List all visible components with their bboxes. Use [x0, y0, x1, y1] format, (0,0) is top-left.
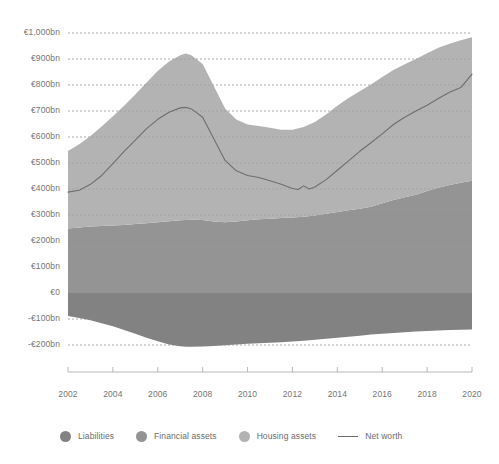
legend-item[interactable]: Housing assets: [239, 431, 317, 442]
legend-item[interactable]: Financial assets: [136, 431, 217, 442]
y-axis-tick-label: €900bn: [31, 54, 60, 63]
chart-container: €1,000bn€900bn€800bn€700bn€600bn€500bn€4…: [0, 0, 499, 464]
x-axis-tick-label: 2008: [183, 390, 223, 399]
area-liabilities: [68, 293, 472, 347]
x-axis-tick-label: 2014: [317, 390, 357, 399]
y-axis-tick-label: €100bn: [31, 262, 60, 271]
x-axis: [68, 367, 472, 372]
y-axis-tick-label: -€100bn: [28, 314, 60, 323]
area-bands: [68, 33, 472, 347]
legend-label: Financial assets: [154, 431, 217, 441]
y-axis-tick-label: €0: [50, 288, 60, 297]
x-axis-tick-label: 2002: [48, 390, 88, 399]
x-axis-tick-label: 2010: [228, 390, 268, 399]
y-axis-tick-label: -€200bn: [28, 340, 60, 349]
y-axis-tick-label: €500bn: [31, 158, 60, 167]
legend-circle-icon: [60, 431, 71, 442]
legend-label: Housing assets: [257, 431, 317, 441]
y-axis-tick-label: €200bn: [31, 236, 60, 245]
x-axis-tick-label: 2020: [452, 390, 492, 399]
legend-circle-icon: [239, 431, 250, 442]
x-axis-tick-label: 2018: [407, 390, 447, 399]
y-axis-tick-label: €1,000bn: [24, 28, 60, 37]
x-axis-tick-label: 2012: [272, 390, 312, 399]
legend-line-icon: [338, 436, 358, 437]
legend-item[interactable]: Net worth: [338, 431, 402, 441]
chart-legend: LiabilitiesFinancial assetsHousing asset…: [60, 425, 460, 447]
y-axis-tick-label: €800bn: [31, 80, 60, 89]
y-axis-tick-label: €600bn: [31, 132, 60, 141]
legend-item[interactable]: Liabilities: [60, 431, 114, 442]
x-axis-tick-label: 2006: [138, 390, 178, 399]
legend-label: Liabilities: [78, 431, 114, 441]
x-axis-tick-label: 2004: [93, 390, 133, 399]
y-axis-tick-label: €400bn: [31, 184, 60, 193]
legend-label: Net worth: [365, 431, 402, 441]
legend-circle-icon: [136, 431, 147, 442]
x-axis-tick-label: 2016: [362, 390, 402, 399]
y-axis-tick-label: €300bn: [31, 210, 60, 219]
y-axis-tick-label: €700bn: [31, 106, 60, 115]
